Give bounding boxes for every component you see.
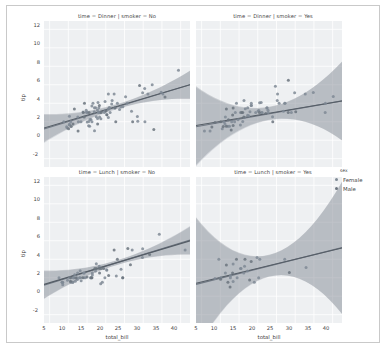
- facet-plot-area: [196, 21, 342, 167]
- scatter-point: [253, 281, 256, 284]
- scatter-point: [90, 276, 93, 279]
- scatter-point: [184, 249, 187, 252]
- scatter-point: [82, 111, 85, 114]
- scatter-point: [160, 91, 163, 94]
- scatter-point: [69, 276, 72, 279]
- ytick-top-7: -2: [22, 151, 38, 157]
- scatter-point: [233, 120, 236, 123]
- scatter-point: [73, 273, 76, 276]
- scatter-point: [227, 118, 230, 121]
- scatter-point: [129, 263, 132, 266]
- ytick-top-1: 10: [24, 40, 40, 46]
- scatter-point: [242, 99, 245, 102]
- scatter-point: [234, 111, 237, 114]
- scatter-point: [224, 116, 227, 119]
- scatter-point: [143, 120, 146, 123]
- xtick-left-6: 35: [149, 325, 163, 331]
- legend-swatch-male: [335, 187, 338, 190]
- scatter-point: [91, 102, 94, 105]
- scatter-point: [91, 273, 94, 276]
- scatter-point: [105, 113, 108, 116]
- scatter-point: [164, 96, 167, 99]
- scatter-point: [131, 120, 134, 123]
- scatter-point: [121, 276, 124, 279]
- legend-title: sex: [340, 168, 383, 173]
- scatter-point: [230, 129, 233, 132]
- scatter-point: [250, 260, 253, 263]
- scatter-point: [126, 102, 129, 105]
- scatter-point: [124, 95, 127, 98]
- scatter-point: [98, 104, 101, 107]
- scatter-point: [120, 268, 123, 271]
- scatter-point: [324, 111, 327, 114]
- scatter-point: [282, 110, 285, 113]
- scatter-point: [81, 276, 84, 279]
- yaxis-label-top: tip: [20, 94, 26, 101]
- scatter-point: [79, 269, 82, 272]
- scatter-point: [96, 101, 99, 104]
- legend-item-male[interactable]: Male: [333, 184, 383, 193]
- scatter-point: [235, 258, 238, 261]
- scatter-point: [66, 279, 69, 282]
- scatter-point: [94, 106, 97, 109]
- facet-plot-area: [44, 177, 190, 323]
- scatter-point: [258, 111, 261, 114]
- scatter-point: [224, 272, 227, 275]
- scatter-point: [228, 125, 231, 128]
- scatter-point: [107, 274, 110, 277]
- scatter-point: [126, 247, 129, 250]
- scatter-point: [231, 114, 234, 117]
- scatter-point: [61, 281, 64, 284]
- scatter-point: [239, 267, 242, 270]
- scatter-point: [86, 275, 89, 278]
- scatter-point: [58, 276, 61, 279]
- scatter-point: [293, 91, 296, 94]
- ytick-bottom-7: -2: [22, 307, 38, 313]
- scatter-point: [93, 110, 96, 113]
- confidence-band: [196, 182, 342, 323]
- scatter-point: [276, 99, 279, 102]
- ytick-top-5: 2: [24, 114, 40, 120]
- scatter-point: [131, 249, 134, 252]
- scatter-point: [248, 279, 251, 282]
- scatter-point: [217, 258, 220, 261]
- scatter-point: [77, 129, 80, 132]
- scatter-point: [96, 123, 99, 126]
- scatter-point: [113, 249, 116, 252]
- scatter-point: [88, 125, 91, 128]
- scatter-point: [148, 253, 151, 256]
- scatter-point: [136, 115, 139, 118]
- scatter-point: [232, 263, 235, 266]
- scatter-point: [219, 120, 222, 123]
- scatter-point: [80, 279, 83, 282]
- scatter-point: [141, 91, 144, 94]
- facet-title-dinner-no: time = Dinner | smoker = No: [42, 13, 192, 19]
- scatter-point: [69, 120, 72, 123]
- scatter-point: [250, 104, 253, 107]
- scatter-point: [219, 278, 222, 281]
- xtick-right-6: 35: [301, 325, 315, 331]
- scatter-point: [114, 120, 117, 123]
- ytick-bottom-4: 4: [24, 252, 40, 258]
- scatter-point: [102, 267, 105, 270]
- scatter-point: [232, 280, 235, 283]
- scatter-point: [246, 114, 249, 117]
- legend-label-male: Male: [343, 186, 356, 192]
- ytick-top-3: 6: [24, 77, 40, 83]
- scatter-point: [223, 120, 226, 123]
- scatter-point: [248, 110, 251, 113]
- scatter-point: [107, 116, 110, 119]
- scatter-point: [290, 111, 293, 114]
- xtick-left-4: 25: [111, 325, 125, 331]
- scatter-point: [136, 120, 139, 123]
- xtick-right-7: 40: [319, 325, 333, 331]
- scatter-point: [257, 276, 260, 279]
- scatter-point: [258, 101, 261, 104]
- scatter-point: [231, 272, 234, 275]
- scatter-point: [68, 115, 71, 118]
- scatter-point: [177, 69, 180, 72]
- xaxis-label-right: total_bill: [237, 334, 301, 340]
- legend-item-female[interactable]: Female: [333, 175, 383, 184]
- scatter-point: [116, 258, 119, 261]
- scatter-point: [77, 120, 80, 123]
